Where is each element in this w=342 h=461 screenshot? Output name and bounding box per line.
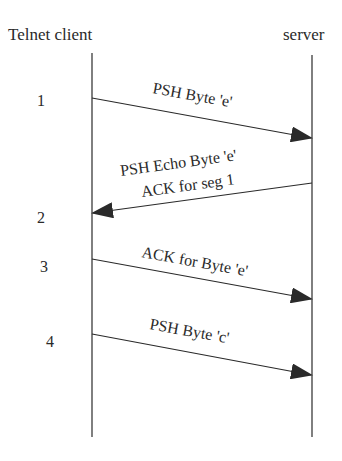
message-2: PSH Echo Byte 'e' ACK for seg 1: [93, 146, 312, 213]
message-3: ACK for Byte 'e': [92, 243, 311, 299]
sequence-diagram: Telnet client server 1 2 3 4 PSH Byte 'e…: [0, 0, 342, 461]
step-number-2: 2: [37, 209, 45, 226]
message-4: PSH Byte 'c': [92, 315, 311, 375]
message-4-label: PSH Byte 'c': [148, 315, 230, 347]
message-3-label: ACK for Byte 'e': [140, 243, 249, 280]
step-number-1: 1: [37, 92, 45, 109]
message-1: PSH Byte 'e': [92, 79, 311, 138]
step-number-4: 4: [46, 333, 54, 350]
message-1-label: PSH Byte 'e': [151, 79, 233, 111]
message-2-label-line-2: ACK for seg 1: [140, 170, 235, 201]
actor-label-client: Telnet client: [8, 25, 93, 44]
step-number-3: 3: [40, 258, 48, 275]
actor-label-server: server: [283, 25, 325, 44]
